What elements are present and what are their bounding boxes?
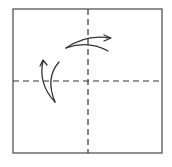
origami-diagram bbox=[0, 0, 172, 167]
